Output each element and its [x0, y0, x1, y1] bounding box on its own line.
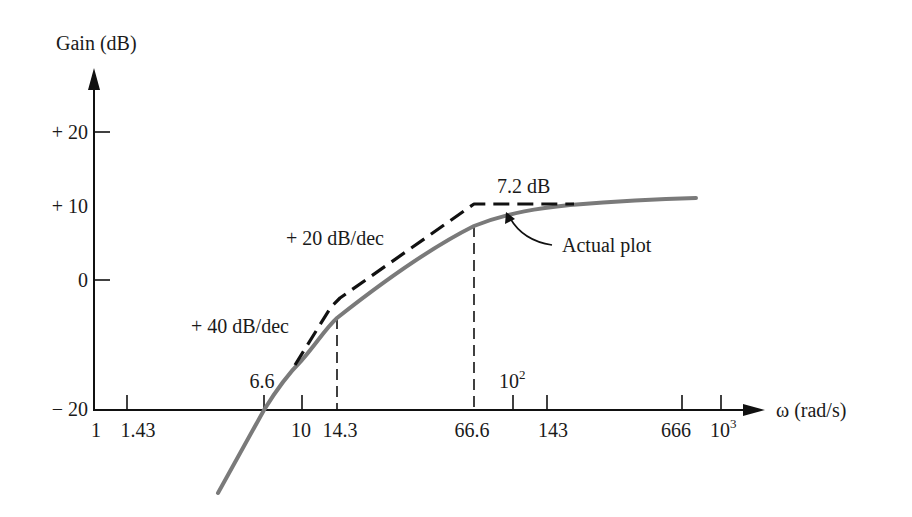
x-axis: ω (rad/s) 1 1.43 10 14.3 66.6 143 666 10… [91, 367, 846, 441]
x-axis-arrow-icon [743, 404, 765, 416]
x-tick-label-143: 143 [538, 419, 568, 441]
x-tick-label-100-exp: 2 [519, 367, 526, 382]
y-tick-label-10: + 10 [52, 195, 88, 217]
x-tick-label-1000-exp: 3 [730, 416, 737, 431]
x-tick-label-14.3: 14.3 [323, 419, 358, 441]
x-tick-label-100-base: 10 [499, 370, 519, 392]
x-tick-label-66.6: 66.6 [455, 419, 490, 441]
x-tick-label-10: 10 [291, 419, 311, 441]
y-axis-label: Gain (dB) [56, 32, 137, 55]
x-tick-label-6.6: 6.6 [250, 370, 275, 392]
y-tick-label-minus20: − 20 [52, 398, 88, 420]
x-tick-label-100: 102 [499, 367, 526, 392]
x-axis-label: ω (rad/s) [776, 399, 846, 422]
annotation-actual-plot: Actual plot [562, 234, 652, 257]
x-tick-label-1.43: 1.43 [121, 419, 156, 441]
y-tick-label-0: 0 [78, 269, 88, 291]
annotation-slope-20: + 20 dB/dec [286, 227, 384, 249]
x-tick-label-1000-base: 10 [710, 419, 730, 441]
bode-magnitude-plot: Gain (dB) + 20 + 10 0 − 20 ω (rad/s) 1 1… [0, 0, 912, 517]
x-tick-label-666: 666 [661, 419, 691, 441]
y-axis-arrow-icon [88, 68, 100, 90]
x-tick-label-1000: 103 [710, 416, 737, 441]
x-tick-label-1: 1 [91, 419, 101, 441]
actual-plot-arrow-line [510, 218, 552, 245]
annotation-flat-7.2db: 7.2 dB [497, 175, 550, 197]
annotation-slope-40: + 40 dB/dec [191, 315, 289, 337]
y-tick-label-20: + 20 [52, 121, 88, 143]
y-axis: Gain (dB) + 20 + 10 0 − 20 [52, 32, 137, 420]
